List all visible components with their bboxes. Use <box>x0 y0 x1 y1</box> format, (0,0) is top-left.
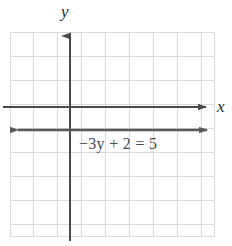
coordinate-plane <box>0 0 232 246</box>
y-axis-label: y <box>61 3 69 20</box>
equation-annotation: −3y + 2 = 5 <box>79 136 157 152</box>
x-axis-label: x <box>217 98 225 115</box>
graph-figure: y x −3y + 2 = 5 <box>0 0 232 246</box>
